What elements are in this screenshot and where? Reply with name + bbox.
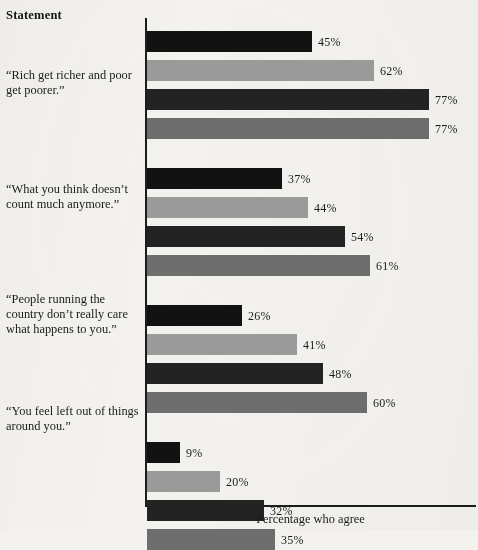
bar	[147, 363, 323, 384]
bar	[147, 31, 312, 52]
bar	[147, 118, 429, 139]
bar-row: 44%	[147, 197, 368, 218]
bar-value-label: 48%	[329, 368, 352, 380]
bar	[147, 168, 282, 189]
bar	[147, 392, 367, 413]
bar-row: 62%	[147, 60, 434, 81]
bar-row: 35%	[147, 529, 335, 550]
bar-value-label: 62%	[380, 65, 403, 77]
bar-value-label: 9%	[186, 447, 203, 459]
bar	[147, 197, 308, 218]
bar-value-label: 41%	[303, 339, 326, 351]
bar	[147, 529, 275, 550]
bar-row: 45%	[147, 31, 372, 52]
bar-value-label: 45%	[318, 36, 341, 48]
bar	[147, 442, 180, 463]
bar-row: 41%	[147, 334, 357, 355]
bar	[147, 305, 242, 326]
bar-value-label: 77%	[435, 94, 458, 106]
bar-row: 37%	[147, 168, 342, 189]
bar-value-label: 60%	[373, 397, 396, 409]
bar	[147, 334, 297, 355]
bar-value-label: 77%	[435, 123, 458, 135]
bar	[147, 226, 345, 247]
bar-row: 26%	[147, 305, 302, 326]
bar-row: 48%	[147, 363, 383, 384]
bar-row: 61%	[147, 255, 430, 276]
bar-value-label: 54%	[351, 231, 374, 243]
bar	[147, 255, 370, 276]
bar	[147, 89, 429, 110]
x-axis-title: Percentage who agree	[145, 512, 476, 527]
bar-value-label: 20%	[226, 476, 249, 488]
bar-row: 77%	[147, 89, 478, 110]
bar-row: 54%	[147, 226, 405, 247]
bar-row: 77%	[147, 118, 478, 139]
bar	[147, 60, 374, 81]
bar-row: 20%	[147, 471, 280, 492]
bar-value-label: 44%	[314, 202, 337, 214]
bar-value-label: 35%	[281, 534, 304, 546]
bar-value-label: 37%	[288, 173, 311, 185]
bar	[147, 471, 220, 492]
bar-row: 60%	[147, 392, 427, 413]
bar-value-label: 26%	[248, 310, 271, 322]
bar-row: 9%	[147, 442, 240, 463]
bar-value-label: 61%	[376, 260, 399, 272]
